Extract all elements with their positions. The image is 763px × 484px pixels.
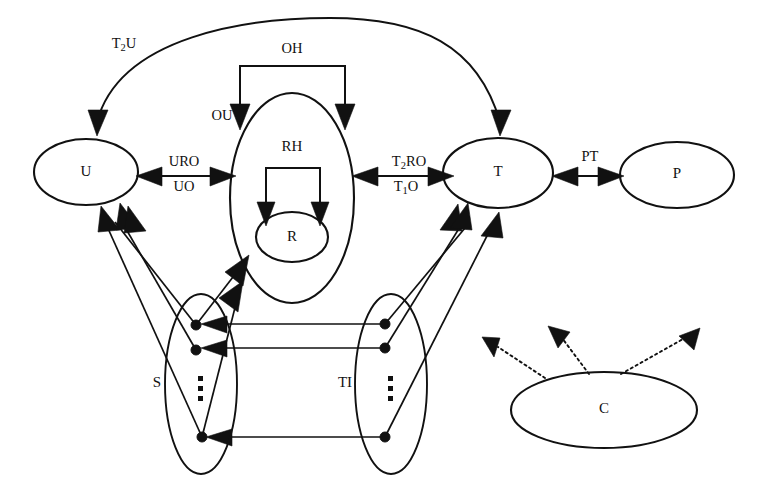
edge-t2u: [88, 18, 511, 136]
ti-port-dot-3[interactable]: [380, 432, 390, 442]
edge-ti2-to-t-line: [385, 222, 463, 348]
edge-label-oh: OH: [282, 40, 303, 56]
diagram-svg: U RH R T P S TI C: [0, 0, 763, 484]
edge-s-to-u: [98, 203, 202, 437]
edge-label-t1o-tail: O: [408, 178, 418, 194]
edge-label-t2ro-main: T: [392, 153, 401, 169]
ti-port-dot-2[interactable]: [380, 343, 390, 353]
s-port-dot-1[interactable]: [191, 320, 201, 330]
s-port-dot-2[interactable]: [191, 345, 201, 355]
node-p-label: P: [673, 165, 681, 181]
edge-ti2-to-s2-arrowhead: [201, 340, 227, 357]
node-ti-label: TI: [338, 374, 352, 390]
edge-c-out-2-arrowhead: [548, 326, 570, 348]
edge-label-t2u: T2U: [112, 35, 137, 53]
edge-t2u-arc: [97, 18, 500, 122]
edge-t2u-arrowhead-left: [88, 110, 108, 136]
edge-c-out-3-arrowhead: [679, 328, 700, 350]
edge-label-uro: URO: [169, 153, 200, 169]
ti-port-dot-1[interactable]: [380, 319, 390, 329]
edge-s-to-rh-arrowhead-b: [219, 281, 243, 312]
diagram-canvas: U RH R T P S TI C: [0, 0, 763, 484]
edge-c-outputs: [482, 326, 700, 378]
edge-label-pt: PT: [582, 148, 599, 164]
edge-c-out-1-line: [498, 347, 545, 378]
edge-t2ro-t1o-arrowhead-left: [352, 167, 378, 186]
edge-label-t1o: T1O: [394, 178, 419, 196]
edge-oh-bracket: [240, 66, 345, 112]
edge-label-t2ro: T2RO: [392, 153, 426, 171]
edge-label-t1o-main: T: [394, 178, 403, 194]
edge-pt: [552, 167, 624, 186]
edge-label-ou: OU: [212, 107, 233, 123]
edge-uro-uo-arrowhead-left: [136, 167, 162, 186]
edge-ti-to-t: [385, 203, 503, 437]
node-t-label: T: [493, 163, 502, 179]
node-s-label: S: [153, 374, 161, 390]
edge-s-to-u-arrowhead-c: [124, 206, 146, 233]
edge-oh: [230, 66, 355, 130]
edge-label-t2u-main: T: [112, 35, 121, 51]
edge-rh-to-r-bracket: [266, 168, 320, 212]
ti-ellipsis-icon: [388, 376, 393, 401]
edge-c-out-3-line: [621, 339, 683, 374]
node-u-label: U: [81, 163, 92, 179]
edge-ti3-to-t-line: [385, 226, 492, 437]
svg-text:T2U: T2U: [112, 35, 137, 53]
s-port-dot-3[interactable]: [197, 432, 207, 442]
svg-text:T1O: T1O: [394, 178, 419, 196]
edge-rh-to-r-arrowhead-left: [257, 202, 275, 226]
node-c-label: C: [599, 400, 609, 416]
edge-t2u-arrowhead-right: [491, 110, 511, 136]
node-r-label: R: [287, 228, 297, 244]
edge-s3-to-rh-line: [202, 292, 239, 437]
edge-c-out-2-line: [562, 338, 589, 374]
edge-ti1-to-s1-arrowhead: [201, 316, 227, 333]
edge-ti1-to-t-line: [385, 222, 470, 324]
edge-ti-to-t-arrowhead-c: [481, 212, 503, 238]
edge-c-out-1-arrowhead: [482, 337, 500, 357]
node-rh[interactable]: [230, 93, 354, 303]
edge-s3-to-u-line: [106, 224, 202, 437]
edge-pt-arrowhead-left: [552, 167, 578, 186]
edge-t2ro-t1o-arrowhead-right: [428, 167, 454, 186]
edge-label-uo: UO: [174, 178, 195, 194]
edge-label-t2u-tail: U: [126, 35, 137, 51]
s-ellipsis-icon: [198, 376, 203, 401]
edge-label-t2ro-tail: RO: [406, 153, 426, 169]
edge-s1-to-u-line: [115, 222, 196, 325]
node-s[interactable]: [165, 294, 237, 474]
node-ti[interactable]: [355, 294, 427, 474]
svg-text:T2RO: T2RO: [392, 153, 426, 171]
node-rh-label: RH: [282, 138, 303, 154]
